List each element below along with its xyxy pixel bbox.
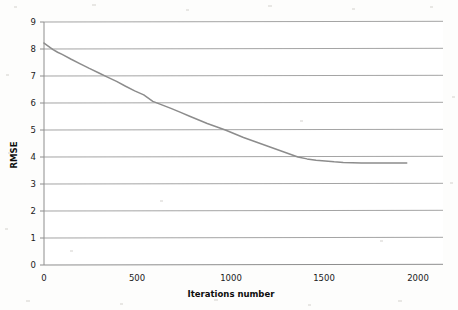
x-tick-label-500: 500: [129, 273, 145, 283]
y-tick-label-6: 6: [31, 98, 36, 108]
y-tick-label-5: 5: [31, 125, 36, 135]
x-tick-label-2000: 2000: [407, 273, 429, 283]
x-tick-label-0: 0: [41, 273, 46, 283]
y-tick-label-1: 1: [31, 233, 36, 243]
x-tick-label-1500: 1500: [313, 273, 335, 283]
y-tick-label-4: 4: [31, 152, 36, 162]
x-axis-title: Iterations number: [188, 289, 276, 299]
y-tick-label-2: 2: [31, 206, 36, 216]
y-tick-label-0: 0: [31, 260, 36, 270]
x-tick-label-1000: 1000: [220, 273, 242, 283]
y-tick-marks: [40, 22, 44, 265]
y-tick-labels: 9 8 7 6 5 4 3 2 1 0: [31, 17, 36, 270]
plot-area-background: [44, 22, 443, 265]
rmse-line-chart: 9 8 7 6 5 4 3 2 1 0 0 500 1000 1500 2000…: [0, 0, 458, 310]
y-axis-title: RMSE: [9, 141, 19, 168]
y-tick-label-9: 9: [31, 17, 36, 27]
y-tick-label-8: 8: [31, 44, 36, 54]
x-axis-line: [44, 264, 443, 265]
gridline-9: [44, 21, 443, 22]
x-tick-labels: 0 500 1000 1500 2000: [41, 273, 429, 283]
chart-figure: 9 8 7 6 5 4 3 2 1 0 0 500 1000 1500 2000…: [0, 0, 458, 310]
y-tick-label-3: 3: [31, 179, 36, 189]
y-tick-label-7: 7: [31, 71, 36, 81]
